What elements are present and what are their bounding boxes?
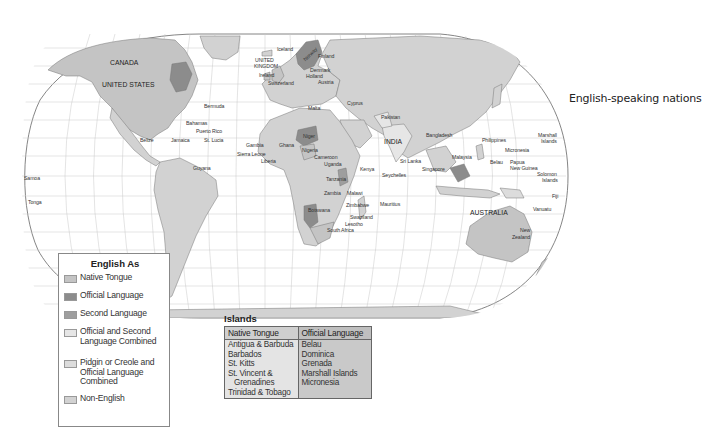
label-st-lucia: St. Lucia (204, 138, 223, 143)
table-cell: St. Kitts (225, 359, 298, 369)
table-cell: Dominica (299, 350, 372, 360)
label-belize: Belize (140, 138, 154, 143)
label-finland: Finland (318, 54, 334, 59)
swatch-official-language (64, 293, 77, 301)
legend-label: Official and SecondLanguage Combined (80, 327, 156, 346)
label-malta: Malta (308, 106, 320, 111)
label-austria: Austria (318, 80, 333, 85)
table-cell: St. Vincent & (225, 369, 298, 379)
label-malawi: Malawi (347, 191, 363, 196)
label-iceland: Iceland (277, 47, 293, 52)
legend-item-official-language: Official Language (64, 291, 143, 301)
label-swaziland: Swaziland (350, 215, 373, 220)
table-cell: Belau (299, 340, 372, 350)
legend-label-line: Language Combined (80, 336, 156, 346)
label-gambia: Gambia (246, 143, 264, 148)
label-sierra-leone: Sierra Leone (237, 152, 266, 157)
legend-item-non-english: Non-English (64, 394, 125, 404)
label-australia: AUSTRALIA (470, 210, 508, 217)
label-nigeria: Nigeria (302, 148, 318, 153)
table-cell: Barbados (225, 350, 298, 360)
islands-table: Native Tongue Antigua & Barbuda Barbados… (224, 326, 372, 399)
label-kenya: Kenya (360, 167, 374, 172)
table-cell: Trinidad & Tobago (225, 388, 298, 398)
label-canada: CANADA (110, 60, 138, 67)
label-tonga: Tonga (28, 200, 42, 205)
legend-label: Pidgin or Creole andOfficial LanguageCom… (80, 358, 154, 387)
label-singapore: Singapore (422, 167, 445, 172)
swatch-second-language (64, 311, 77, 319)
swatch-non-english (64, 396, 77, 404)
label-new-zealand-2: Zealand (512, 235, 530, 240)
label-seychelles: Seychelles (382, 173, 406, 178)
label-philippines: Philippines (482, 138, 506, 143)
label-malaysia: Malaysia (452, 155, 472, 160)
table-cell: Marshall Islands (299, 369, 372, 379)
swatch-native-tongue (64, 275, 77, 283)
islands-column-official-language: Official Language Belau Dominica Grenada… (299, 327, 372, 398)
table-cell: Antigua & Barbuda (225, 340, 298, 350)
legend-label-line: Official Language (80, 367, 143, 377)
label-united-states: UNITED STATES (102, 82, 155, 89)
label-south-africa: South Africa (327, 228, 354, 233)
legend-item-native-tongue: Native Tongue (64, 273, 132, 283)
label-samoa: Samoa (24, 176, 40, 181)
legend-label: Second Language (80, 309, 147, 319)
legend-label-line: Official and Second (80, 326, 151, 336)
label-uganda: Uganda (324, 162, 342, 167)
label-ireland: Ireland (259, 73, 274, 78)
legend-item-pidgin-creole: Pidgin or Creole andOfficial LanguageCom… (64, 358, 154, 387)
label-papua-new-guinea-2: New Guinea (510, 166, 538, 171)
islands-column-native-tongue: Native Tongue Antigua & Barbuda Barbados… (225, 327, 299, 398)
legend-title: English As (59, 258, 171, 269)
label-botswana: Botswana (308, 208, 330, 213)
column-header: Native Tongue (225, 327, 298, 340)
label-tanzania: Tanzania (326, 177, 346, 182)
label-solomon-islands-2: Islands (542, 178, 558, 183)
label-guyana: Guyana (193, 166, 211, 171)
label-micronesia: Micronesia (505, 148, 529, 153)
label-marshall-islands-2: Islands (541, 139, 557, 144)
label-bangladesh: Bangladesh (426, 133, 452, 138)
swatch-official-and-second (64, 329, 77, 337)
label-sri-lanka: Sri Lanka (400, 159, 421, 164)
label-puerto-rico: Puerto Rico (196, 129, 222, 134)
label-jamaica: Jamaica (171, 138, 190, 143)
islands-title: Islands (224, 313, 257, 324)
label-pakistan: Pakistan (381, 115, 400, 120)
label-switzerland: Switzerland (268, 81, 294, 86)
legend-label: Non-English (80, 394, 125, 404)
label-cameroon: Cameroon (314, 155, 337, 160)
label-cyprus: Cyprus (347, 101, 363, 106)
label-liberia: Liberia (261, 159, 276, 164)
label-united-kingdom-2: KINGDOM (254, 64, 278, 69)
table-cell: Grenadines (225, 378, 298, 388)
label-belau: Belau (490, 160, 503, 165)
label-mauritius: Mauritius (380, 202, 400, 207)
label-zimbabwe: Zimbabwe (346, 203, 369, 208)
table-cell: Grenada (299, 359, 372, 369)
label-bahamas: Bahamas (186, 121, 207, 126)
label-vanuatu: Vanuatu (533, 207, 551, 212)
label-new-zealand-1: New (520, 228, 530, 233)
label-fiji: Fiji (552, 194, 558, 199)
legend-label: Native Tongue (80, 273, 132, 283)
legend-label-line: Pidgin or Creole and (80, 357, 154, 367)
legend-item-second-language: Second Language (64, 309, 147, 319)
legend-label-line: Combined (80, 376, 118, 386)
label-india: INDIA (384, 139, 402, 146)
label-bermuda: Bermuda (204, 104, 224, 109)
map-caption: English-speaking nations (569, 92, 702, 105)
column-header: Official Language (299, 327, 372, 340)
label-zambia: Zambia (324, 191, 341, 196)
swatch-pidgin-creole (64, 360, 77, 368)
label-ghana: Ghana (279, 143, 294, 148)
legend: English As Native Tongue Official Langua… (58, 253, 170, 427)
legend-label: Official Language (80, 291, 143, 301)
label-niger: Niger (303, 134, 315, 139)
table-cell: Micronesia (299, 378, 372, 388)
legend-item-official-and-second: Official and SecondLanguage Combined (64, 327, 156, 346)
